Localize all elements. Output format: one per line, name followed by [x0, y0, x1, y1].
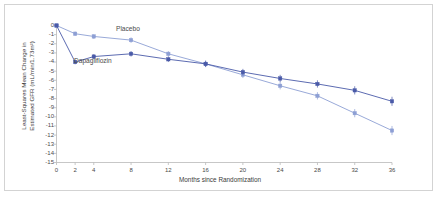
- plot-area: [0, 0, 439, 197]
- series-label-dapagliflozin: Dapagliflozin: [74, 57, 112, 64]
- series-label-placebo: Placebo: [116, 25, 140, 32]
- axes-lines: [54, 25, 392, 165]
- series-group: [55, 24, 394, 135]
- chart-figure: Least-Squares Mean Change in Estimated G…: [0, 0, 439, 197]
